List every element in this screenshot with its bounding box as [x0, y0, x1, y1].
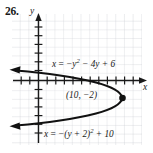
eq-top-term2: − 4y [82, 59, 99, 69]
equation-standard-form: x = −y2 − 4y + 6 [52, 58, 115, 69]
y-axis-label: y [30, 7, 34, 17]
eq-top-term3: + 6 [102, 59, 115, 69]
problem-number: 26. [5, 6, 19, 18]
equation-vertex-form: x = −(y + 2)2 + 10 [44, 128, 114, 139]
eq-top-term1: −y [66, 59, 76, 69]
vertex-point-label: (10, −2) [66, 91, 97, 100]
eq-bottom-constant: + 10 [96, 129, 114, 139]
eq-bottom-group: −(y + 2) [58, 129, 90, 139]
vertex-point-marker [119, 95, 126, 102]
figure-panel: 26. y x x = −y2 − 4y + 6 x = −(y + 2)2 +… [0, 0, 153, 153]
x-axis-label: x [143, 83, 147, 93]
